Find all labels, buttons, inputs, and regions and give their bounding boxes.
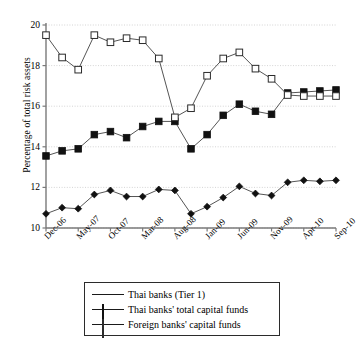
data-point [333,93,340,100]
data-point [75,66,82,73]
data-point [220,55,227,62]
data-point [91,131,98,138]
data-point [139,123,146,130]
chart-legend: Thai banks (Tier 1) Thai banks' total ca… [84,282,280,336]
series-3 [43,32,340,121]
data-point [204,203,211,210]
data-point [236,183,243,190]
data-point [236,101,243,108]
legend-item-thai-total[interactable]: Thai banks' total capital funds [91,302,273,317]
data-point [252,190,259,197]
data-point [43,153,50,160]
data-point [155,118,162,125]
data-point [220,194,227,201]
data-point [107,187,114,194]
data-point [252,108,259,115]
legend-item-foreign[interactable]: Foreign banks' capital funds [91,317,273,332]
data-point [75,146,82,153]
data-point [43,210,50,217]
legend-label: Foreign banks' capital funds [125,319,241,330]
data-point [91,32,98,39]
data-point [300,93,307,100]
axis-lines [46,23,336,228]
data-point [204,131,211,138]
series-2 [43,87,340,160]
data-point [59,148,66,155]
data-point [300,177,307,184]
data-point [317,93,324,100]
data-point [188,146,195,153]
data-point [268,75,275,82]
legend-marker-open-square-icon [91,318,125,332]
data-point [172,114,179,121]
data-point [252,65,259,72]
data-point [123,35,130,42]
data-point [236,49,243,56]
data-point [139,37,146,44]
legend-label: Thai banks' total capital funds [125,304,248,315]
data-point [107,39,114,46]
data-point [188,105,195,112]
legend-marker-diamond-icon [91,288,125,302]
data-point [43,32,50,39]
legend-item-thai-tier1[interactable]: Thai banks (Tier 1) [91,287,273,302]
grid-lines [46,25,336,228]
data-point [59,54,66,61]
data-point [204,72,211,79]
data-point [123,134,130,141]
data-point [171,187,178,194]
data-point [333,177,340,184]
series-1 [43,177,340,217]
legend-label: Thai banks (Tier 1) [125,289,205,300]
data-point [123,193,130,200]
legend-marker-filled-square-icon [91,303,125,317]
data-point [59,204,66,211]
data-point [268,111,275,118]
data-point [155,55,162,62]
data-point [139,193,146,200]
data-series-layer [43,32,340,217]
data-point [316,178,323,185]
data-point [220,112,227,119]
data-point [284,92,291,99]
data-point [107,128,114,135]
